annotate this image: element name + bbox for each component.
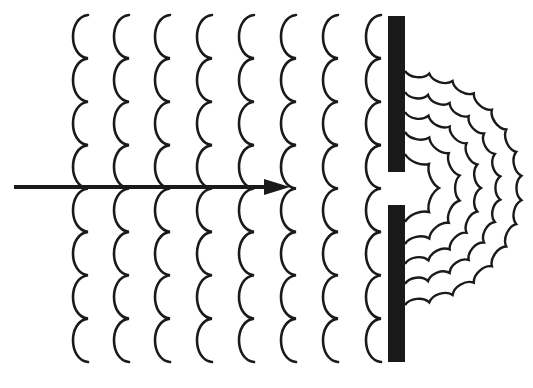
diffraction-diagram: Diffraction of plane waves through a sin… [0, 0, 533, 388]
diffracted-wavefront-2 [405, 132, 460, 244]
diffracted-circular-waves [405, 71, 521, 305]
propagation-arrow [14, 179, 290, 195]
wavefront-7 [323, 15, 338, 362]
diagram-canvas [0, 0, 533, 388]
barrier-upper [388, 16, 405, 172]
diffracted-wavefront-3 [405, 112, 481, 264]
diffracted-wavefront-5 [405, 71, 521, 305]
diffracted-wavefront-4 [405, 92, 500, 284]
wavefront-8 [366, 15, 381, 362]
barrier-lower [388, 205, 405, 362]
slit-barrier [388, 16, 405, 362]
diffracted-wavefront-1 [405, 154, 439, 222]
